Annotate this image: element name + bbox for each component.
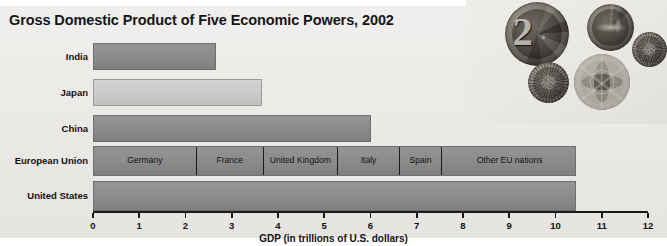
x-axis-tick-4 <box>277 213 279 218</box>
x-axis-tick-label-5: 5 <box>322 220 327 231</box>
x-axis-tick-11 <box>601 213 603 218</box>
x-axis-tick-label-11: 11 <box>597 220 607 231</box>
x-axis-tick-label-1: 1 <box>137 220 142 231</box>
x-axis-tick-label-8: 8 <box>460 220 465 231</box>
category-label-european-union: European Union <box>0 155 88 166</box>
eu-segment-germany: Germany <box>94 147 196 175</box>
bar-china <box>93 115 371 142</box>
category-label-japan: Japan <box>0 87 88 98</box>
x-axis-tick-10 <box>555 213 557 218</box>
x-axis-tick-label-7: 7 <box>414 220 419 231</box>
eu-segment-other-eu-nations: Other EU nations <box>441 147 577 175</box>
bird-coin-icon <box>587 4 634 51</box>
x-axis-tick-12 <box>647 213 649 218</box>
bar-india <box>93 43 216 70</box>
x-axis-tick-3 <box>231 213 233 218</box>
x-axis-tick-label-4: 4 <box>275 220 280 231</box>
x-axis-tick-8 <box>462 213 464 218</box>
x-axis-tick-7 <box>416 213 418 218</box>
x-axis-tick-2 <box>185 213 187 218</box>
x-axis-tick-label-9: 9 <box>507 220 512 231</box>
dark-textured-coin-icon <box>528 62 569 103</box>
x-axis-tick-label-3: 3 <box>229 220 234 231</box>
eu-segment-spain: Spain <box>399 147 441 175</box>
bar-united-states <box>93 181 576 211</box>
gdp-bar-chart-figure: Gross Domestic Product of Five Economic … <box>0 0 667 246</box>
x-axis-tick-label-6: 6 <box>368 220 373 231</box>
category-label-united-states: United States <box>0 190 88 201</box>
x-axis-tick-label-12: 12 <box>643 220 654 231</box>
globe-coin-icon <box>574 54 630 110</box>
x-axis-tick-5 <box>323 213 325 218</box>
x-axis-tick-6 <box>370 213 372 218</box>
x-axis-title: GDP (in trillions of U.S. dollars) <box>0 233 667 244</box>
x-axis-tick-label-2: 2 <box>183 220 188 231</box>
chart-title: Gross Domestic Product of Five Economic … <box>9 12 394 28</box>
two-euro-coin-icon: 2 <box>505 2 569 66</box>
x-axis-tick-label-0: 0 <box>90 220 95 231</box>
eu-segment-italy: Italy <box>337 147 399 175</box>
x-axis-tick-1 <box>138 213 140 218</box>
eu-segment-united-kingdom: United Kingdom <box>263 147 337 175</box>
category-label-india: India <box>0 51 88 62</box>
bar-japan <box>93 79 262 106</box>
eu-segment-france: France <box>196 147 263 175</box>
x-axis-tick-label-10: 10 <box>550 220 561 231</box>
small-coin-icon <box>632 32 667 67</box>
euro-coins-photo: 2 <box>466 0 667 124</box>
category-label-china: China <box>0 123 88 134</box>
x-axis-tick-9 <box>508 213 510 218</box>
x-axis-tick-0 <box>92 213 94 218</box>
bar-european-union: GermanyFranceUnited KingdomItalySpainOth… <box>93 146 576 176</box>
